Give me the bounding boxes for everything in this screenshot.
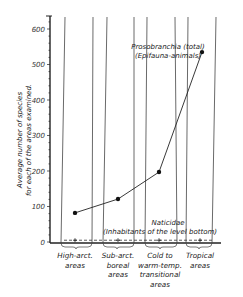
y-tick-label: 0 bbox=[41, 239, 46, 247]
x-category-label: Sub-arct.borealareas bbox=[102, 251, 135, 279]
x-category-label: High-arct.areas bbox=[57, 251, 93, 270]
data-point bbox=[116, 197, 120, 201]
plus-marker bbox=[116, 238, 120, 242]
x-category-label: Tropicalareas bbox=[186, 251, 214, 270]
data-point bbox=[73, 211, 77, 215]
data-point bbox=[157, 170, 161, 174]
y-tick-label: 400 bbox=[32, 97, 46, 105]
area-braces bbox=[61, 243, 212, 249]
series-line-prosobranchia bbox=[75, 52, 202, 213]
plus-marker bbox=[198, 238, 202, 242]
plus-marker bbox=[157, 238, 161, 242]
y-axis-label: Average number of speciesfor each of the… bbox=[16, 84, 33, 196]
series-label-prosobranchia: Prosobranchia (total)(Epifauna-animals) bbox=[131, 43, 205, 60]
series-label-naticidae: Naticidae(Inhabitants of the level botto… bbox=[103, 219, 217, 236]
y-tick-label: 100 bbox=[32, 203, 46, 211]
plus-marker bbox=[73, 238, 77, 242]
chart: 0100200300400500600 High-arct.areasSub-a… bbox=[0, 0, 243, 297]
y-axis bbox=[46, 16, 52, 243]
y-tick-label: 600 bbox=[32, 26, 46, 34]
x-category-label: Cold towarm-temp.transitionalareas bbox=[138, 251, 182, 289]
y-tick-label: 300 bbox=[32, 132, 46, 140]
y-tick-label: 500 bbox=[32, 61, 46, 69]
y-tick-label: 200 bbox=[32, 168, 46, 176]
